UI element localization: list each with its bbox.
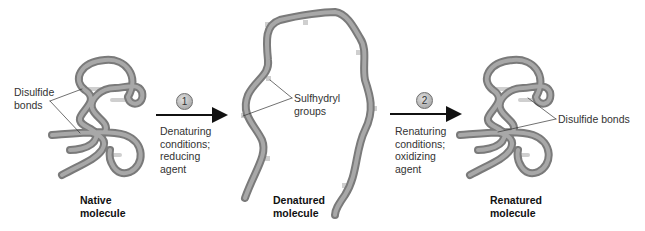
- native-molecule-title: Nativemolecule: [80, 194, 126, 219]
- renatured-molecule-icon: [460, 60, 556, 175]
- denatured-callout-label: Sulfhydrylgroups: [294, 92, 340, 117]
- protein-denaturation-diagram: Disulfidebonds Nativemolecule 1 Denaturi…: [0, 0, 645, 231]
- step-1-badge: 1: [176, 93, 193, 110]
- denatured-molecule-title: Denaturedmolecule: [273, 194, 325, 219]
- step-2-label: Renaturingconditions;oxidizingagent: [395, 125, 446, 175]
- native-molecule-icon: [50, 60, 142, 175]
- renatured-callout-label: Disulfide bonds: [558, 113, 630, 126]
- native-callout-label: Disulfidebonds: [14, 86, 54, 111]
- renatured-molecule-title: Renaturedmolecule: [490, 194, 542, 219]
- step-2-badge: 2: [416, 92, 433, 109]
- step-1-label: Denaturingconditions;reducingagent: [160, 125, 211, 175]
